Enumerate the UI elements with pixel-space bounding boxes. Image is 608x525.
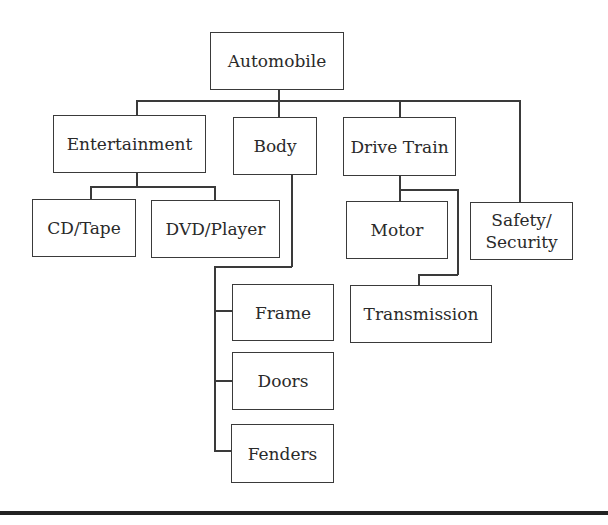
connector-body-jog <box>214 266 292 268</box>
automobile-hierarchy-diagram: Automobile Entertainment Body Drive Trai… <box>0 0 608 525</box>
connector-to-safety <box>519 100 521 202</box>
node-automobile: Automobile <box>210 32 344 90</box>
node-drive-train: Drive Train <box>343 117 456 176</box>
connector-body-down <box>291 175 293 267</box>
connector-to-cd-tape <box>90 186 92 199</box>
bottom-rule-divider <box>0 511 608 515</box>
connector-drive-train-branch <box>399 189 458 191</box>
node-safety-security: Safety/ Security <box>470 202 573 260</box>
connector-entertainment-bus <box>90 186 215 188</box>
node-dvd-player: DVD/Player <box>151 200 280 258</box>
connector-to-fenders <box>214 450 232 452</box>
connector-to-dvd-player <box>214 186 216 200</box>
node-doors: Doors <box>232 352 334 410</box>
node-safety-line-2: Security <box>485 231 557 253</box>
connector-body-spine <box>214 266 216 451</box>
node-body: Body <box>233 117 317 175</box>
node-motor: Motor <box>346 201 448 259</box>
node-transmission: Transmission <box>350 285 492 343</box>
connector-to-drive-train <box>399 100 401 117</box>
connector-to-frame <box>214 310 232 312</box>
connector-to-doors <box>214 380 232 382</box>
connector-to-entertainment <box>136 100 138 115</box>
node-entertainment: Entertainment <box>53 115 206 173</box>
node-frame: Frame <box>232 284 334 341</box>
connector-to-transmission <box>418 274 420 285</box>
node-fenders: Fenders <box>231 424 334 483</box>
connector-level1-bus <box>136 100 520 102</box>
node-cd-tape: CD/Tape <box>32 199 136 257</box>
connector-to-body <box>278 100 280 117</box>
connector-entertainment-down <box>136 172 138 187</box>
connector-transmission-jog <box>418 274 458 276</box>
connector-drive-train-spine <box>457 189 459 275</box>
node-safety-line-1: Safety/ <box>491 209 551 231</box>
